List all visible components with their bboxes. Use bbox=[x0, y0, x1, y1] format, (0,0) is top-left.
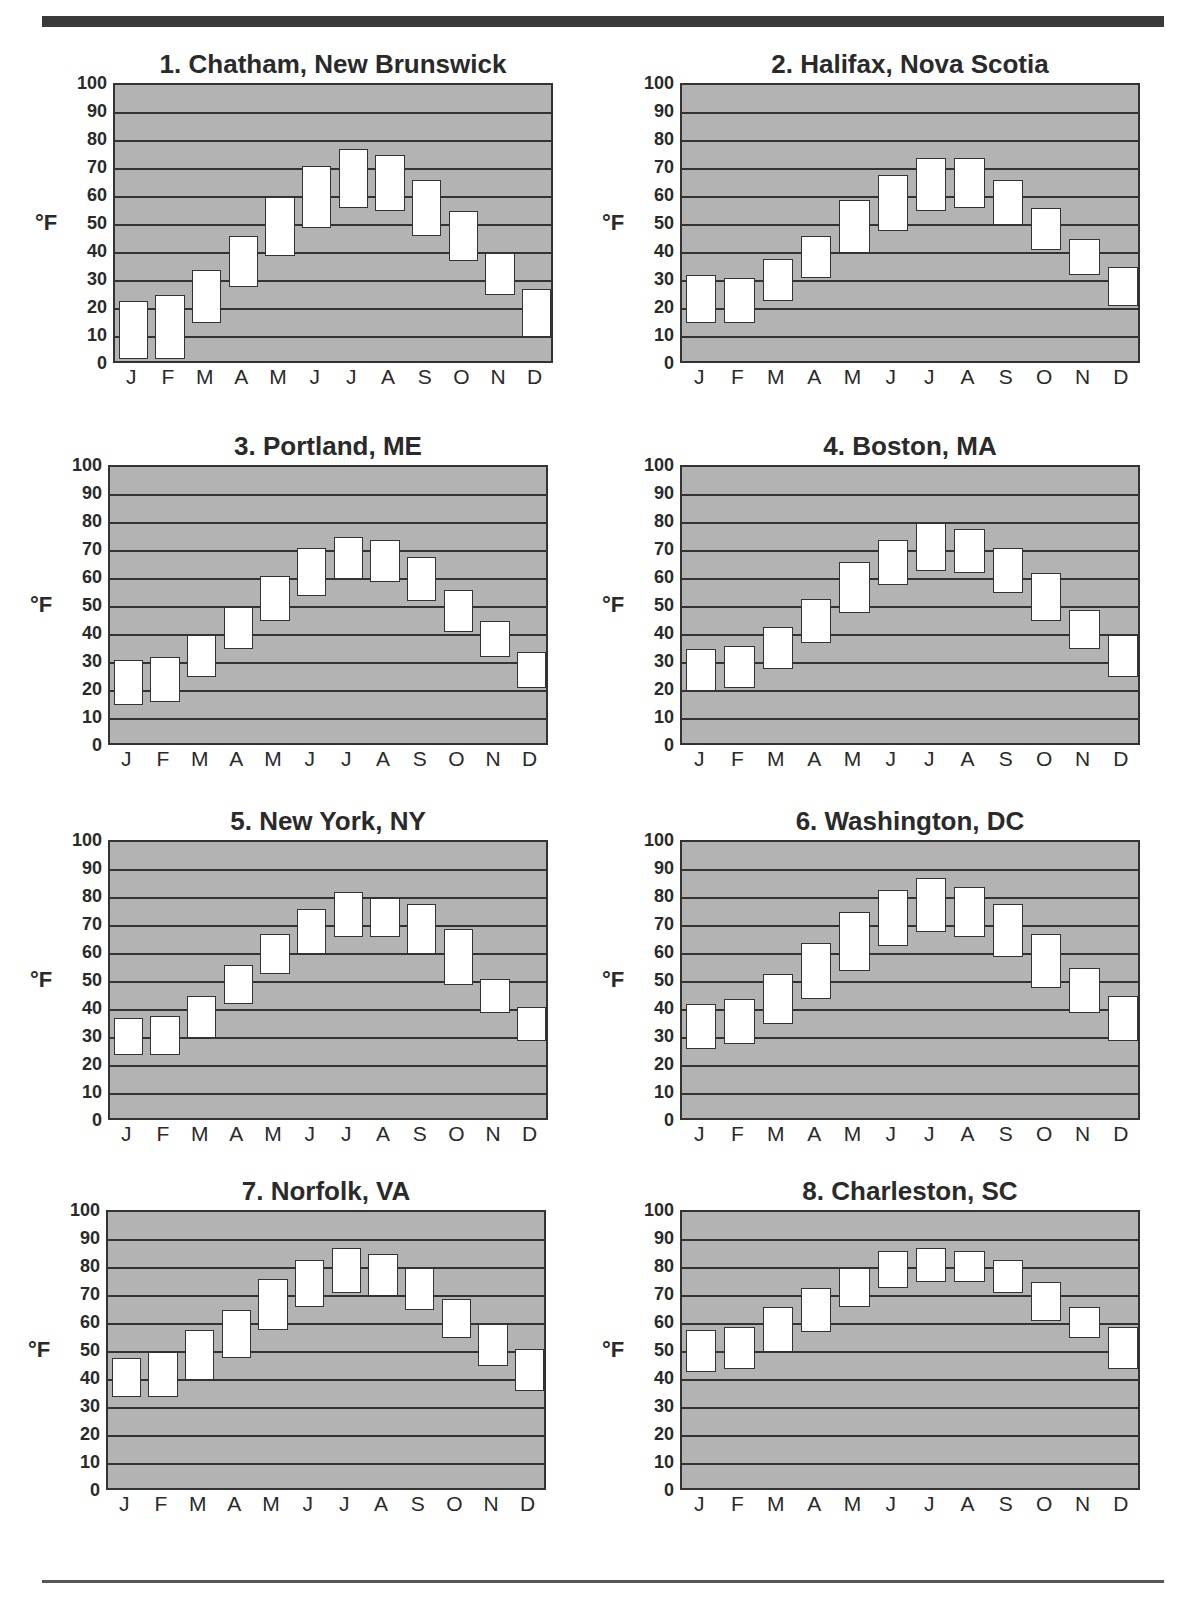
y-tick-label: 60 bbox=[56, 1313, 100, 1331]
y-tick-label: 20 bbox=[56, 1425, 100, 1443]
gridline bbox=[682, 1379, 1138, 1381]
x-tick-label: D bbox=[520, 365, 550, 389]
temperature-range-bar bbox=[517, 1007, 546, 1041]
temperature-range-bar bbox=[192, 270, 221, 323]
temperature-range-bar bbox=[724, 999, 755, 1044]
temperature-range-bar bbox=[297, 909, 326, 954]
x-tick-label: A bbox=[953, 747, 983, 771]
chart-8: 8. Charleston, SC0102030405060708090100°… bbox=[600, 1170, 1160, 1540]
x-tick-label: O bbox=[441, 747, 471, 771]
temperature-range-bar bbox=[1069, 239, 1100, 275]
gridline bbox=[115, 196, 551, 198]
y-tick-label: 30 bbox=[630, 1397, 674, 1415]
temperature-range-bar bbox=[878, 1251, 909, 1287]
plot-area bbox=[108, 840, 548, 1120]
y-tick-label: 20 bbox=[630, 1425, 674, 1443]
y-tick-label: 40 bbox=[630, 1369, 674, 1387]
y-tick-label: 50 bbox=[58, 971, 102, 989]
temperature-range-bar bbox=[114, 660, 143, 705]
gridline bbox=[110, 1065, 546, 1067]
gridline bbox=[108, 1463, 544, 1465]
chart-title: 1. Chatham, New Brunswick bbox=[113, 49, 553, 80]
y-tick-label: 60 bbox=[58, 568, 102, 586]
x-tick-label: A bbox=[221, 747, 251, 771]
y-tick-label: 10 bbox=[630, 708, 674, 726]
y-tick-label: 80 bbox=[58, 887, 102, 905]
y-tick-label: 0 bbox=[58, 736, 102, 754]
x-tick-label: O bbox=[1029, 747, 1059, 771]
x-tick-label: F bbox=[723, 1492, 753, 1516]
gridline bbox=[682, 690, 1138, 692]
gridline bbox=[682, 550, 1138, 552]
x-tick-label: J bbox=[116, 365, 146, 389]
temperature-range-bar bbox=[1108, 1327, 1139, 1369]
gridline bbox=[108, 1407, 544, 1409]
temperature-range-bar bbox=[412, 180, 441, 236]
y-tick-label: 70 bbox=[58, 915, 102, 933]
x-tick-label: J bbox=[293, 1492, 323, 1516]
y-tick-label: 80 bbox=[63, 130, 107, 148]
temperature-range-bar bbox=[724, 1327, 755, 1369]
x-tick-label: A bbox=[226, 365, 256, 389]
y-tick-label: 20 bbox=[630, 298, 674, 316]
temperature-range-bar bbox=[763, 974, 794, 1024]
top-header-bar bbox=[42, 16, 1164, 27]
temperature-range-bar bbox=[375, 155, 404, 211]
plot-area bbox=[113, 83, 553, 363]
gridline bbox=[110, 606, 546, 608]
temperature-range-bar bbox=[954, 158, 985, 208]
y-axis-unit-label: °F bbox=[35, 210, 57, 236]
y-tick-label: 100 bbox=[630, 1201, 674, 1219]
chart-title: 8. Charleston, SC bbox=[680, 1176, 1140, 1207]
x-tick-label: D bbox=[1106, 1122, 1136, 1146]
y-tick-label: 50 bbox=[630, 1341, 674, 1359]
y-tick-label: 90 bbox=[630, 1229, 674, 1247]
x-tick-label: J bbox=[295, 747, 325, 771]
temperature-range-bar bbox=[763, 1307, 794, 1352]
temperature-range-bar bbox=[297, 548, 326, 596]
y-tick-label: 100 bbox=[63, 74, 107, 92]
x-tick-label: A bbox=[799, 747, 829, 771]
temperature-range-bar bbox=[407, 557, 436, 602]
temperature-range-bar bbox=[478, 1324, 507, 1366]
y-axis-unit-label: °F bbox=[602, 967, 624, 993]
y-tick-label: 60 bbox=[63, 186, 107, 204]
y-tick-label: 10 bbox=[630, 1453, 674, 1471]
y-tick-label: 20 bbox=[58, 680, 102, 698]
y-tick-label: 90 bbox=[56, 1229, 100, 1247]
y-tick-label: 90 bbox=[630, 102, 674, 120]
gridline bbox=[682, 522, 1138, 524]
gridline bbox=[110, 718, 546, 720]
temperature-range-bar bbox=[187, 996, 216, 1038]
gridline bbox=[108, 1435, 544, 1437]
gridline bbox=[115, 112, 551, 114]
y-tick-label: 40 bbox=[630, 999, 674, 1017]
plot-area bbox=[680, 465, 1140, 745]
gridline bbox=[115, 168, 551, 170]
y-tick-label: 50 bbox=[58, 596, 102, 614]
x-tick-label: A bbox=[219, 1492, 249, 1516]
y-tick-label: 0 bbox=[630, 354, 674, 372]
y-tick-label: 90 bbox=[630, 484, 674, 502]
x-tick-label: F bbox=[146, 1492, 176, 1516]
y-tick-label: 30 bbox=[58, 1027, 102, 1045]
gridline bbox=[682, 1239, 1138, 1241]
temperature-range-bar bbox=[222, 1310, 251, 1358]
y-tick-label: 40 bbox=[630, 624, 674, 642]
y-tick-label: 30 bbox=[630, 1027, 674, 1045]
y-tick-label: 100 bbox=[56, 1201, 100, 1219]
y-tick-label: 100 bbox=[630, 831, 674, 849]
x-tick-label: M bbox=[761, 1122, 791, 1146]
gridline bbox=[110, 578, 546, 580]
temperature-range-bar bbox=[515, 1349, 544, 1391]
x-tick-label: O bbox=[441, 1122, 471, 1146]
x-tick-label: D bbox=[515, 747, 545, 771]
temperature-range-bar bbox=[295, 1260, 324, 1308]
y-tick-label: 90 bbox=[630, 859, 674, 877]
y-tick-label: 70 bbox=[56, 1285, 100, 1303]
temperature-range-bar bbox=[1031, 934, 1062, 987]
y-tick-label: 80 bbox=[630, 512, 674, 530]
x-tick-label: O bbox=[1029, 1122, 1059, 1146]
x-tick-label: J bbox=[684, 1492, 714, 1516]
x-tick-label: A bbox=[953, 1122, 983, 1146]
